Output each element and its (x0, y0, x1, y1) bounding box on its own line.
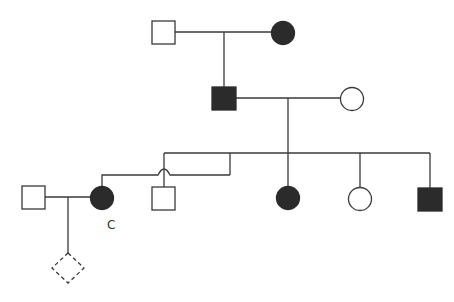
individual-II-1-male-affected (212, 87, 236, 110)
line-to-consultand (102, 169, 230, 187)
individual-III-3-female-affected (277, 187, 300, 210)
individual-III-1-female-affected-consultand (91, 187, 114, 210)
individual-III-partner-male-unaffected (22, 186, 45, 209)
individual-III-4-female-unaffected (349, 188, 372, 211)
pedigree-diagram: C (0, 0, 454, 302)
consultand-label: C (107, 218, 115, 232)
individual-III-5-male-affected (418, 188, 442, 211)
individual-I-1-male-unaffected (152, 21, 175, 44)
individual-IV-1-unborn-diamond (52, 253, 84, 283)
individual-III-2-male-unaffected (152, 187, 175, 210)
individual-I-2-female-affected (272, 22, 295, 45)
individual-II-2-female-unaffected (341, 88, 364, 111)
